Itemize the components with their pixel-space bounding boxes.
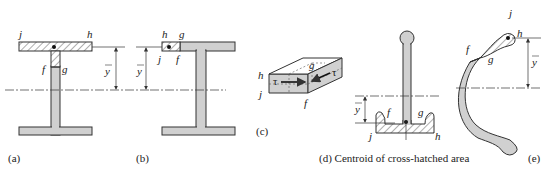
label-f-e: f — [466, 43, 471, 55]
centroid-dot-b — [167, 45, 171, 49]
label-j-b: j — [156, 53, 161, 65]
label-ybar-b: y — [136, 65, 142, 77]
web — [51, 66, 60, 135]
hatched-web-part — [51, 51, 60, 67]
label-f: f — [42, 63, 47, 75]
label-h-c: h — [258, 69, 264, 81]
label-j: j — [17, 28, 22, 40]
caption-d: (d) Centroid of cross-hatched area — [319, 152, 469, 165]
centroid-dot — [52, 45, 56, 49]
label-g-b: g — [179, 28, 185, 40]
label-tau-side: τ — [332, 66, 337, 78]
label-h: h — [87, 28, 93, 40]
label-g: g — [62, 63, 68, 75]
label-g-c: g — [309, 59, 315, 71]
top-flange — [180, 42, 235, 51]
panel-a: j h f g y (a) — [5, 28, 150, 165]
label-j-d: j — [367, 130, 372, 142]
label-g-d: g — [418, 106, 424, 118]
label-ybar-e: y — [531, 56, 537, 68]
label-f-c: f — [304, 97, 309, 109]
panel-e: j h f g y (e) — [456, 7, 541, 165]
label-j-e: j — [507, 7, 512, 19]
label-f-b: f — [176, 53, 181, 65]
curved-body — [458, 58, 517, 155]
label-j-c: j — [257, 88, 262, 100]
label-h-e: h — [517, 27, 523, 39]
panel-b: y h g j f (b) — [136, 28, 235, 165]
hatched-flange-tip — [162, 42, 180, 51]
label-tau-front: τ — [273, 75, 278, 87]
stem — [403, 40, 411, 130]
caption-c: (c) — [256, 125, 269, 138]
centroid-dot-e — [506, 36, 510, 40]
label-h-d: h — [435, 130, 441, 142]
shear-flow-figure: j h f g y (a) y h g j f (b) — [0, 0, 558, 177]
web-b — [196, 50, 206, 128]
label-ybar: y — [104, 65, 110, 77]
panel-c: τ τ h j g f (c) — [256, 58, 342, 138]
panel-d: y f g j h (d) Centroid of cross-hatched … — [319, 31, 469, 165]
web-joint — [52, 125, 59, 129]
caption-a: (a) — [8, 152, 21, 165]
caption-b: (b) — [136, 152, 149, 165]
label-f-d: f — [387, 106, 392, 118]
label-ybar-d: y — [354, 103, 360, 115]
label-g-e: g — [488, 53, 494, 65]
caption-e: (e) — [528, 152, 541, 165]
label-h-b: h — [162, 28, 168, 40]
